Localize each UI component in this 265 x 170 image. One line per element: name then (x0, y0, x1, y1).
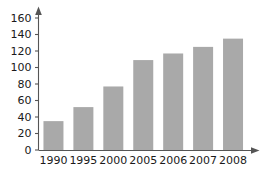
y-tick-label-140: 140 (11, 28, 32, 41)
x-tick-label-2005: 2005 (129, 154, 157, 167)
x-tick-label-2006: 2006 (159, 154, 187, 167)
chart-canvas: 020406080100120140160 199019952000200520… (0, 0, 265, 170)
y-tick-label-40: 40 (18, 111, 32, 124)
x-tick-label-1995: 1995 (69, 154, 97, 167)
x-tick-label-2000: 2000 (99, 154, 127, 167)
y-tick-label-0: 0 (25, 144, 32, 157)
x-tick-label-2007: 2007 (189, 154, 217, 167)
y-tick-label-120: 120 (11, 45, 32, 58)
y-tick-label-80: 80 (18, 78, 32, 91)
bar-chart-figure: 020406080100120140160 199019952000200520… (0, 0, 265, 170)
bar-2007 (193, 47, 213, 150)
bar-1990 (43, 121, 63, 150)
bar-2008 (223, 39, 243, 150)
bar-1995 (73, 107, 93, 150)
x-tick-label-1990: 1990 (39, 154, 67, 167)
bar-2005 (133, 60, 153, 150)
y-tick-label-100: 100 (11, 61, 32, 74)
bar-2006 (163, 53, 183, 150)
bar-2000 (103, 86, 123, 150)
y-tick-label-20: 20 (18, 127, 32, 140)
x-axis-ticks-group: 1990199520002005200620072008 (39, 154, 247, 167)
x-tick-label-2008: 2008 (219, 154, 247, 167)
y-tick-label-160: 160 (11, 12, 32, 25)
y-tick-label-60: 60 (18, 94, 32, 107)
